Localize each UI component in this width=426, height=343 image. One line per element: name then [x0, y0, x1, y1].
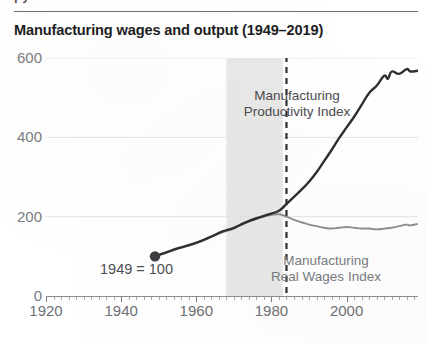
x-tick-1982: [279, 297, 280, 300]
annotation-productivity-line2: Productivity Index: [222, 104, 372, 120]
x-tick-1998: [339, 297, 340, 300]
x-tick-1966: [219, 297, 220, 300]
annotation-productivity: Manufacturing Productivity Index: [222, 88, 372, 119]
x-tick-1972: [241, 297, 242, 300]
x-tick-2002: [354, 297, 355, 300]
x-tick-1968: [226, 297, 227, 300]
page-title: Manufacturing wages and output (1949–201…: [14, 22, 323, 38]
y-tick-label-200: 200: [17, 209, 42, 224]
x-tick-1994: [324, 297, 325, 300]
x-tick-1934: [99, 297, 100, 300]
x-tick-1954: [174, 297, 175, 300]
x-tick-1948: [151, 297, 152, 300]
x-tick-2016: [407, 297, 408, 300]
x-tick-1988: [302, 297, 303, 300]
y-tick-label-600: 600: [17, 50, 42, 65]
y-tick-label-400: 400: [17, 129, 42, 144]
x-tick-1932: [91, 297, 92, 300]
x-tick-1950: [159, 297, 160, 300]
x-tick-2014: [399, 297, 400, 300]
x-tick-1938: [114, 297, 115, 300]
x-tick-2004: [362, 297, 363, 300]
y-axis-labels: 0200400600: [0, 0, 42, 343]
x-tick-2008: [377, 297, 378, 300]
x-tick-1942: [129, 297, 130, 300]
x-tick-2006: [369, 297, 370, 300]
x-tick-label-1940: 1940: [104, 303, 137, 318]
annotation-wages: Manufacturing Real Wages Index: [246, 253, 406, 284]
x-tick-1974: [249, 297, 250, 300]
x-tick-1976: [256, 297, 257, 300]
x-tick-2018: [414, 297, 415, 300]
x-tick-1926: [69, 297, 70, 300]
x-tick-label-2000: 2000: [330, 303, 363, 318]
x-tick-1936: [106, 297, 107, 300]
x-tick-1962: [204, 297, 205, 300]
x-tick-1964: [211, 297, 212, 300]
cut-off-text-strip: py: [0, 0, 426, 16]
x-tick-1990: [309, 297, 310, 300]
x-tick-1924: [61, 297, 62, 300]
x-tick-1944: [136, 297, 137, 300]
x-tick-label-1980: 1980: [255, 303, 288, 318]
x-tick-1984: [286, 297, 287, 300]
x-tick-1986: [294, 297, 295, 300]
x-tick-1922: [54, 297, 55, 300]
x-tick-1956: [181, 297, 182, 300]
x-tick-2010: [384, 297, 385, 300]
annotation-base-year: 1949 = 100: [100, 262, 173, 277]
marker-points: [150, 251, 160, 261]
x-axis-labels: 19201940196019802000: [0, 303, 426, 327]
x-tick-label-1920: 1920: [29, 303, 62, 318]
x-tick-2012: [392, 297, 393, 300]
x-tick-1992: [317, 297, 318, 300]
x-tick-1928: [76, 297, 77, 300]
x-tick-1970: [234, 297, 235, 300]
annotation-productivity-line1: Manufacturing: [222, 88, 372, 104]
horizontal-rule: [14, 11, 418, 12]
x-tick-label-1960: 1960: [180, 303, 213, 318]
y-tick-label-0: 0: [34, 288, 42, 303]
x-tick-1952: [166, 297, 167, 300]
x-tick-1946: [144, 297, 145, 300]
x-tick-1978: [264, 297, 265, 300]
base-year-marker-dot: [150, 251, 160, 261]
x-tick-1958: [189, 297, 190, 300]
annotation-wages-line2: Real Wages Index: [246, 269, 406, 285]
x-tick-1996: [332, 297, 333, 300]
annotation-wages-line1: Manufacturing: [246, 253, 406, 269]
x-tick-1930: [84, 297, 85, 300]
